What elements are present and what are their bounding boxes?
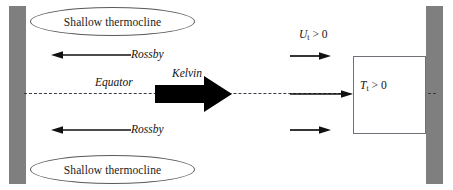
western-boundary-wall [9, 6, 26, 184]
rossby-label-south: Rossby [131, 123, 164, 135]
equatorial-wave-diagram: Shallow thermocline Shallow thermocline … [0, 0, 453, 190]
kelvin-wave-arrow [155, 76, 232, 112]
shallow-thermocline-ellipse-north: Shallow thermocline [30, 7, 195, 36]
rossby-arrow-south [50, 125, 132, 135]
temperature-anomaly-label: Tt > 0 [360, 79, 387, 93]
shallow-thermocline-label-north: Shallow thermocline [64, 16, 161, 28]
temperature-anomaly-box [353, 56, 426, 134]
shallow-thermocline-ellipse-south: Shallow thermocline [30, 155, 195, 184]
rossby-label-north: Rossby [131, 48, 164, 60]
rossby-arrow-north [50, 50, 132, 60]
zonal-current-arrow-equator [290, 89, 354, 99]
zonal-current-relation: > 0 [312, 28, 327, 40]
zonal-current-subscript: t [307, 33, 309, 42]
zonal-current-label: Ut > 0 [299, 28, 328, 42]
equator-label: Equator [95, 76, 133, 88]
eastern-boundary-wall [426, 6, 443, 184]
zonal-current-arrow-south [290, 125, 332, 135]
kelvin-label: Kelvin [172, 67, 202, 79]
temperature-subscript: t [366, 84, 368, 93]
temperature-relation: > 0 [372, 79, 387, 91]
zonal-current-arrow-north [290, 51, 332, 61]
shallow-thermocline-label-south: Shallow thermocline [64, 164, 161, 176]
